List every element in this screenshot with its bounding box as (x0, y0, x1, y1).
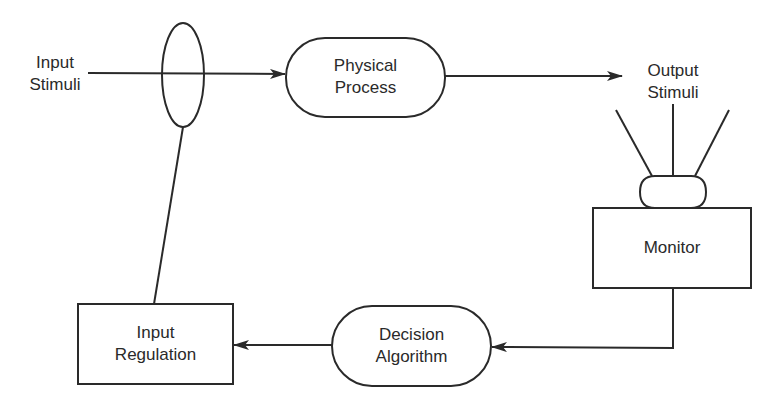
monitor-label: Monitor (593, 237, 751, 259)
physical-process-line-2: Process (286, 77, 445, 99)
monitor-to-decision-arrow (492, 288, 673, 348)
input-flow-arrow (88, 73, 285, 74)
input-stimuli-label: Input Stimuli (22, 52, 88, 96)
antenna-line-left (616, 110, 652, 176)
decision-algorithm-line-2: Algorithm (332, 346, 491, 368)
output-stimuli-line-2: Stimuli (633, 82, 713, 104)
decision-algorithm-label: Decision Algorithm (332, 324, 491, 368)
input-stimuli-line-1: Input (22, 52, 88, 74)
monitor-line-1: Monitor (593, 237, 751, 259)
sensor-node (640, 176, 706, 208)
physical-process-line-1: Physical (286, 55, 445, 77)
input-regulation-line-1: Input (78, 322, 233, 344)
antenna-line-right (695, 110, 729, 176)
input-regulation-label: Input Regulation (78, 322, 233, 366)
regulation-to-valve-line (154, 127, 183, 304)
output-stimuli-line-1: Output (633, 60, 713, 82)
regulator-valve-ellipse (162, 23, 204, 127)
output-stimuli-label: Output Stimuli (633, 60, 713, 104)
decision-algorithm-line-1: Decision (332, 324, 491, 346)
physical-process-label: Physical Process (286, 55, 445, 99)
input-stimuli-line-2: Stimuli (22, 74, 88, 96)
input-regulation-line-2: Regulation (78, 344, 233, 366)
